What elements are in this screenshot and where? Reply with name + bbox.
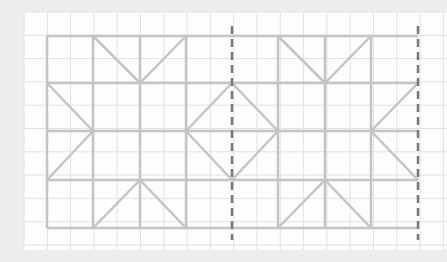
pattern-diagonal: [47, 83, 93, 131]
pattern-diagonal: [140, 36, 186, 83]
pattern-diagonal: [186, 131, 232, 180]
pattern-diagonal: [371, 83, 418, 131]
pattern-diagonal: [278, 180, 325, 228]
pattern-diagonal: [278, 36, 325, 83]
pattern-diagonal: [93, 180, 140, 228]
quilt-pattern-diagram: [0, 0, 447, 262]
pattern-diagonal: [232, 83, 278, 131]
pattern-diagonal: [232, 131, 278, 180]
pattern-diagonal: [371, 131, 418, 180]
pattern-diagonal: [186, 83, 232, 131]
pattern-diagonal: [325, 36, 371, 83]
pattern-diagonal: [47, 131, 93, 180]
pattern-diagonal: [93, 36, 140, 83]
pattern-diagonal: [140, 180, 186, 228]
pattern-diagonal: [325, 180, 371, 228]
